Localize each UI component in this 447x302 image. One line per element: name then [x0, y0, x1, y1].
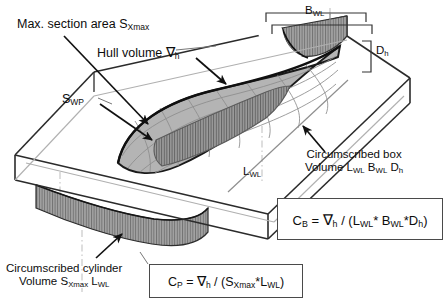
- callout-cylinder-line1: Circumscribed cylinder: [6, 262, 122, 274]
- leader-cp-box: [140, 252, 148, 264]
- arrow-circumscribed-cylinder: [96, 234, 122, 258]
- label-depth-hull: Dh: [376, 44, 389, 57]
- label-waterplane-area: SWP: [62, 92, 84, 106]
- formula-cp-text: CP = ∇h / (SXmax*LWL): [168, 273, 284, 289]
- label-depth-hull-sub: h: [384, 49, 388, 58]
- nabla-symbol-cp: ∇: [197, 273, 206, 289]
- box-left-top-edge: [15, 72, 94, 155]
- formula-prismatic-coefficient: CP = ∇h / (SXmax*LWL): [149, 264, 303, 298]
- label-length-waterline: LWL: [243, 165, 261, 178]
- box-hidden-left-edge: [15, 96, 94, 180]
- callout-box-line1: Circumscribed box: [306, 148, 401, 160]
- label-max-section-area: Max. section area SXmax: [17, 17, 149, 31]
- callout-box-line2: Volume LWL BWL Dh: [305, 161, 403, 174]
- hull-coefficients-figure: Max. section area SXmax Hull volume ∇h S…: [0, 0, 447, 302]
- label-length-waterline-sub: WL: [249, 170, 261, 179]
- nabla-symbol: ∇: [166, 44, 175, 60]
- label-beam-waterline-sub: WL: [313, 9, 325, 18]
- formula-cb-text: CB = ∇h / (LWL* BWL*Dh): [293, 211, 428, 228]
- label-max-section-area-sub: Xmax: [127, 22, 149, 32]
- callout-circumscribed-box: Circumscribed box Volume LWL BWL Dh: [305, 148, 403, 174]
- label-waterplane-area-sub: WP: [70, 97, 84, 107]
- callout-circumscribed-cylinder: Circumscribed cylinder Volume SXmax LWL: [6, 262, 122, 288]
- label-hull-volume: Hull volume ∇h: [97, 44, 180, 60]
- formula-block-coefficient: CB = ∇h / (LWL* BWL*Dh): [277, 198, 443, 240]
- callout-cylinder-line2: Volume SXmax LWL: [6, 275, 122, 288]
- nabla-symbol-cb: ∇: [323, 212, 333, 228]
- label-beam-waterline: BWL: [305, 4, 324, 17]
- label-hull-volume-sub: h: [175, 51, 180, 61]
